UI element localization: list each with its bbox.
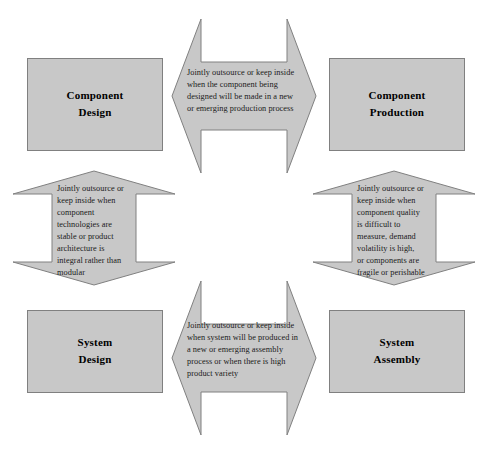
top-arrow-label: Jointly outsource or keep inside when th… — [187, 67, 309, 115]
node-component-design[interactable]: Component Design — [27, 58, 163, 151]
node-system-assembly-line2: Assembly — [374, 352, 421, 368]
right-arrow-label: Jointly outsource or keep inside when co… — [357, 183, 439, 279]
diagram-canvas: Component Design Component Production Sy… — [0, 0, 487, 454]
node-component-production-line2: Production — [370, 105, 424, 121]
node-component-production-line1: Component — [369, 88, 426, 104]
left-arrow-label: Jointly outsource or keep inside when co… — [57, 183, 137, 279]
node-system-design[interactable]: System Design — [27, 310, 163, 393]
node-system-assembly-line1: System — [380, 335, 415, 351]
node-system-design-line1: System — [78, 335, 113, 351]
bottom-arrow-label: Jointly outsource or keep inside when sy… — [187, 320, 311, 380]
node-component-design-line1: Component — [67, 88, 124, 104]
node-component-production[interactable]: Component Production — [329, 58, 465, 151]
node-system-design-line2: Design — [79, 352, 112, 368]
node-system-assembly[interactable]: System Assembly — [329, 310, 465, 393]
node-component-design-line2: Design — [79, 105, 112, 121]
